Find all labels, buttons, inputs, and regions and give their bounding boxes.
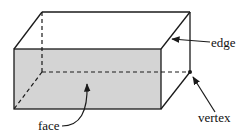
edge-label: edge <box>211 35 236 50</box>
top-right-depth-edge <box>161 12 190 49</box>
vertex-label: vertex <box>198 110 231 125</box>
prism-diagram: edge vertex face <box>0 0 248 138</box>
edge-pointer-arrow <box>172 39 210 42</box>
vertex-dot <box>188 70 192 74</box>
bottom-right-depth-edge <box>161 72 190 109</box>
vertex-pointer-arrow <box>193 77 215 112</box>
top-left-depth-edge <box>14 12 42 49</box>
face-label: face <box>38 118 60 133</box>
